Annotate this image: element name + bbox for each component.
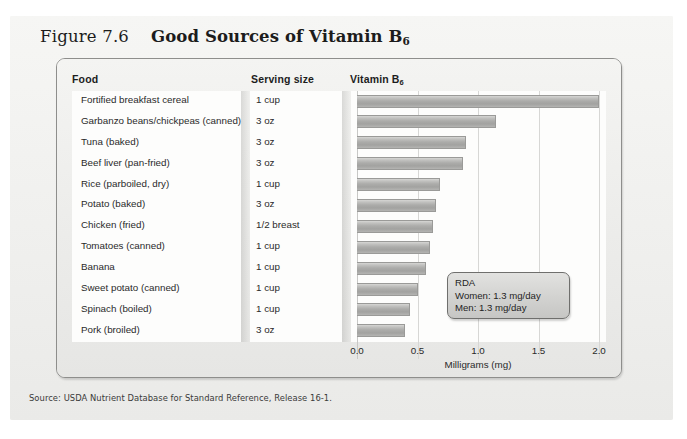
bar[interactable] bbox=[357, 220, 433, 233]
rda-callout: RDA Women: 1.3 mg/day Men: 1.3 mg/day bbox=[447, 272, 570, 319]
table-row[interactable]: Pork (broiled)3 oz bbox=[57, 321, 621, 342]
cell-serving-size: 1 cup bbox=[256, 303, 280, 314]
figure-number: Figure 7.6 bbox=[40, 27, 129, 46]
bar-track bbox=[357, 95, 599, 108]
cell-food: Spinach (boiled) bbox=[81, 303, 152, 314]
bar[interactable] bbox=[357, 283, 418, 296]
bar[interactable] bbox=[357, 241, 430, 254]
source-note: Source: USDA Nutrient Database for Stand… bbox=[29, 393, 332, 403]
cell-food: Chicken (fried) bbox=[81, 219, 145, 230]
x-axis-label: Milligrams (mg) bbox=[445, 359, 512, 370]
cell-serving-size: 1 cup bbox=[256, 178, 280, 189]
column-header-vitamin-b6: Vitamin B6 bbox=[350, 73, 404, 85]
cell-food: Garbanzo beans/chickpeas (canned) bbox=[81, 115, 241, 126]
table-row[interactable]: Beef liver (pan-fried)3 oz bbox=[57, 154, 621, 175]
x-tick-label: 0.0 bbox=[350, 345, 364, 356]
bar-track bbox=[357, 157, 463, 170]
x-tick-label: 1.5 bbox=[532, 345, 546, 356]
column-header-vitamin-text: Vitamin B bbox=[350, 73, 400, 85]
bar-track bbox=[357, 283, 418, 296]
cell-serving-size: 1 cup bbox=[256, 94, 280, 105]
figure-heading-subscript: 6 bbox=[403, 35, 410, 47]
column-header-serving-size: Serving size bbox=[251, 73, 314, 85]
table-row[interactable]: Fortified breakfast cereal1 cup bbox=[57, 91, 621, 112]
cell-food: Rice (parboiled, dry) bbox=[81, 178, 169, 189]
table-row[interactable]: Potato (baked)3 oz bbox=[57, 195, 621, 216]
bar-track bbox=[357, 136, 466, 149]
bar[interactable] bbox=[357, 115, 496, 128]
cell-food: Sweet potato (canned) bbox=[81, 282, 180, 293]
column-header-food: Food bbox=[72, 73, 98, 85]
rda-women: Women: 1.3 mg/day bbox=[455, 290, 569, 303]
cell-food: Fortified breakfast cereal bbox=[81, 94, 189, 105]
cell-serving-size: 3 oz bbox=[256, 198, 275, 209]
x-tick-label: 1.0 bbox=[471, 345, 485, 356]
rda-men: Men: 1.3 mg/day bbox=[455, 302, 569, 315]
chart-card: Food Serving size Vitamin B6 Fortified b… bbox=[56, 58, 622, 378]
cell-serving-size: 1 cup bbox=[256, 240, 280, 251]
table-row[interactable]: Rice (parboiled, dry)1 cup bbox=[57, 175, 621, 196]
table-row[interactable]: Garbanzo beans/chickpeas (canned)3 oz bbox=[57, 112, 621, 133]
bar[interactable] bbox=[357, 303, 410, 316]
cell-food: Potato (baked) bbox=[81, 198, 145, 209]
bar[interactable] bbox=[357, 136, 466, 149]
cell-serving-size: 3 oz bbox=[256, 115, 275, 126]
figure-page: Figure 7.6 Good Sources of Vitamin B6 Fo… bbox=[0, 0, 687, 439]
table-row[interactable]: Chicken (fried)1/2 breast bbox=[57, 216, 621, 237]
bar[interactable] bbox=[357, 178, 440, 191]
cell-serving-size: 1/2 breast bbox=[256, 219, 300, 230]
bar-track bbox=[357, 199, 436, 212]
chart-card-surface: Food Serving size Vitamin B6 Fortified b… bbox=[57, 59, 621, 377]
x-tick-label: 2.0 bbox=[592, 345, 606, 356]
cell-food: Beef liver (pan-fried) bbox=[81, 157, 170, 168]
cell-serving-size: 1 cup bbox=[256, 261, 280, 272]
cell-serving-size: 3 oz bbox=[256, 157, 275, 168]
bar-track bbox=[357, 303, 410, 316]
column-header-vitamin-subscript: 6 bbox=[400, 78, 404, 87]
x-tick-label: 0.5 bbox=[411, 345, 425, 356]
bar[interactable] bbox=[357, 199, 436, 212]
bar-track bbox=[357, 262, 426, 275]
table-row[interactable]: Tuna (baked)3 oz bbox=[57, 133, 621, 154]
cell-food: Tomatoes (canned) bbox=[81, 240, 165, 251]
cell-serving-size: 3 oz bbox=[256, 324, 275, 335]
bar-track bbox=[357, 178, 440, 191]
figure-heading-text: Good Sources of Vitamin B bbox=[151, 27, 402, 46]
cell-serving-size: 1 cup bbox=[256, 282, 280, 293]
bar[interactable] bbox=[357, 95, 599, 108]
bar-track bbox=[357, 220, 433, 233]
figure-title: Figure 7.6 Good Sources of Vitamin B6 bbox=[40, 27, 410, 46]
bar-track bbox=[357, 115, 496, 128]
bar[interactable] bbox=[357, 324, 405, 337]
cell-food: Tuna (baked) bbox=[81, 136, 139, 147]
cell-food: Pork (broiled) bbox=[81, 324, 140, 335]
bar-track bbox=[357, 241, 430, 254]
x-axis: 0.00.51.01.52.0 Milligrams (mg) bbox=[57, 345, 621, 377]
bar[interactable] bbox=[357, 262, 426, 275]
figure-heading: Good Sources of Vitamin B6 bbox=[151, 27, 410, 46]
bar[interactable] bbox=[357, 157, 463, 170]
cell-serving-size: 3 oz bbox=[256, 136, 275, 147]
rda-title: RDA bbox=[455, 277, 569, 290]
table-row[interactable]: Tomatoes (canned)1 cup bbox=[57, 237, 621, 258]
cell-food: Banana bbox=[81, 261, 115, 272]
bar-track bbox=[357, 324, 405, 337]
